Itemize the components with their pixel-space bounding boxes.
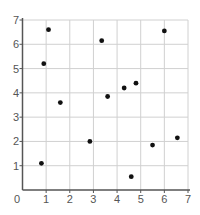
- data-points: [39, 27, 180, 179]
- y-axis-ticks: 1234567: [13, 14, 23, 172]
- data-point-marker: [46, 27, 51, 32]
- x-tick-label: 4: [114, 193, 120, 205]
- data-point-marker: [175, 135, 180, 140]
- x-tick-label: 3: [90, 193, 96, 205]
- x-tick-label: 2: [67, 193, 73, 205]
- y-tick-label: 7: [13, 14, 19, 26]
- y-tick-label: 4: [13, 87, 19, 99]
- data-point-marker: [99, 38, 104, 43]
- y-tick-label: 5: [13, 63, 19, 75]
- x-tick-label: 5: [138, 193, 144, 205]
- y-tick-label: 3: [13, 111, 19, 123]
- y-tick-label: 6: [13, 38, 19, 50]
- data-point-marker: [122, 86, 127, 91]
- x-tick-label: 0: [14, 193, 20, 205]
- x-tick-label: 1: [43, 193, 49, 205]
- grid-lines: [23, 20, 189, 190]
- x-tick-label: 7: [185, 193, 191, 205]
- data-point-marker: [134, 81, 139, 86]
- data-point-marker: [129, 174, 134, 179]
- data-point-marker: [58, 100, 63, 105]
- data-point-marker: [150, 143, 155, 148]
- y-tick-label: 1: [13, 160, 19, 172]
- data-point-marker: [41, 61, 46, 66]
- y-tick-label: 2: [13, 135, 19, 147]
- x-axis-ticks: 01234567: [14, 190, 191, 205]
- scatter-chart: 01234567 1234567: [0, 0, 200, 215]
- x-tick-label: 6: [161, 193, 167, 205]
- data-point-marker: [87, 139, 92, 144]
- data-point-marker: [162, 29, 167, 34]
- data-point-marker: [105, 94, 110, 99]
- data-point-marker: [39, 161, 44, 166]
